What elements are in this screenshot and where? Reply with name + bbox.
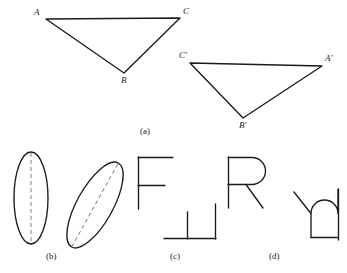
part-a-group bbox=[46, 18, 322, 118]
vertex-label-b: B bbox=[121, 76, 127, 85]
letter-f-rotated bbox=[164, 204, 216, 239]
letter-r-bowl bbox=[228, 158, 266, 185]
ellipse-tilted bbox=[56, 154, 134, 255]
caption-c: (c) bbox=[170, 252, 180, 261]
vertex-label-a-prime: A' bbox=[325, 54, 332, 63]
caption-b: (b) bbox=[46, 252, 57, 261]
part-b-group bbox=[14, 152, 134, 256]
figure-root: A C B C' A' B' (a) (b) (c) (d) bbox=[0, 0, 347, 273]
part-d-group bbox=[228, 157, 339, 240]
vertex-label-c-prime: C' bbox=[179, 51, 187, 60]
letter-r-upright bbox=[228, 157, 266, 208]
caption-a: (a) bbox=[140, 127, 150, 136]
vertex-label-c: C bbox=[183, 7, 189, 16]
part-c-group bbox=[138, 157, 216, 239]
vertex-label-a: A bbox=[34, 8, 40, 17]
letter-r-rotated-leg bbox=[294, 192, 311, 214]
vertex-label-b-prime: B' bbox=[239, 121, 246, 130]
letter-r-leg bbox=[246, 185, 263, 209]
letter-f-upright bbox=[138, 157, 173, 209]
caption-d: (d) bbox=[269, 252, 280, 261]
letter-r-rotated-bowl bbox=[311, 190, 338, 238]
letter-r-rotated bbox=[294, 189, 339, 240]
triangle-a-prime-b-prime-c-prime bbox=[190, 63, 322, 118]
triangle-abc bbox=[46, 18, 180, 73]
ellipse-tilted-axis bbox=[72, 164, 118, 246]
figure-canvas bbox=[0, 0, 347, 273]
